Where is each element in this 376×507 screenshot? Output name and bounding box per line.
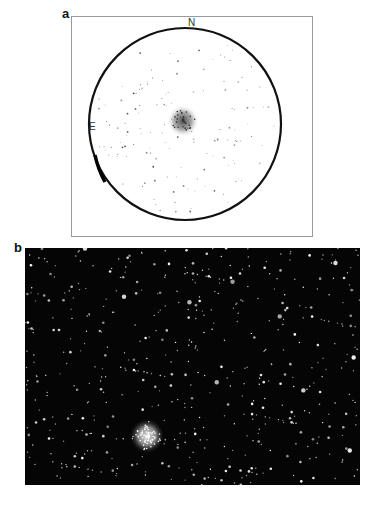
north-label: N	[188, 17, 195, 28]
star-field-graphic	[25, 248, 360, 485]
star-field-photo	[25, 248, 360, 485]
east-label: E	[89, 121, 96, 132]
panel-b-label: b	[14, 240, 22, 255]
panel-a-label: a	[62, 6, 69, 21]
finder-chart-graphic	[72, 17, 314, 238]
finder-chart-panel: N E	[71, 16, 313, 237]
